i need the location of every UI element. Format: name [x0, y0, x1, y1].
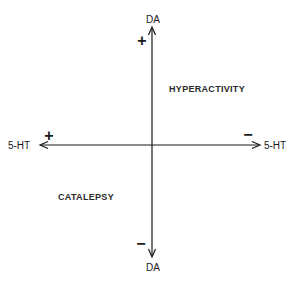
hyperactivity-label: HYPERACTIVITY	[169, 84, 245, 94]
da-plus-sign: +	[137, 33, 146, 49]
da-bottom-label: DA	[146, 263, 160, 273]
5ht-left-label: 5-HT	[8, 141, 30, 151]
5ht-right-label: 5-HT	[264, 141, 286, 151]
da-minus-sign: −	[136, 236, 145, 252]
da-top-label: DA	[146, 15, 160, 25]
5ht-plus-sign: +	[44, 128, 53, 144]
5ht-minus-sign: −	[243, 127, 252, 143]
catalepsy-label: CATALEPSY	[58, 192, 114, 202]
